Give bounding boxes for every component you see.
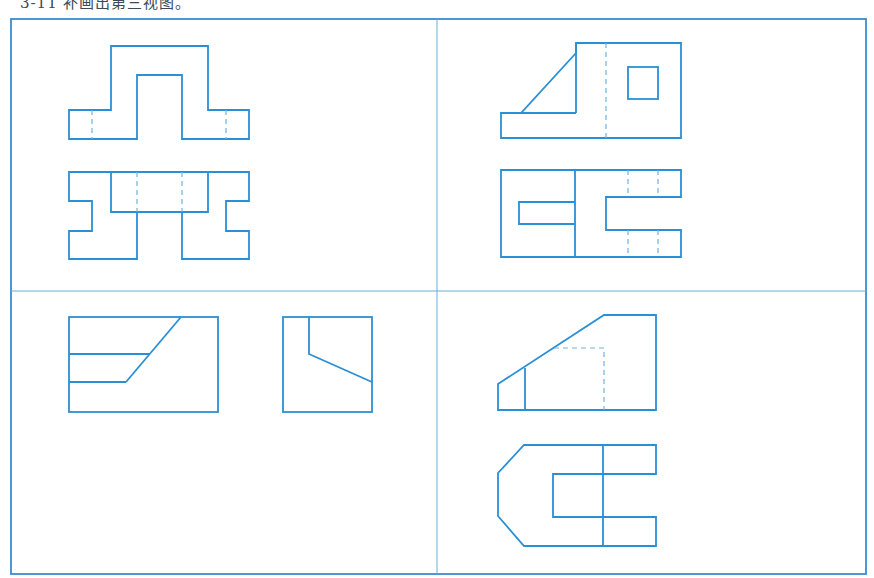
panel-b-drawing (501, 43, 681, 257)
panel-c-front-view (69, 317, 218, 412)
side-cut-line (309, 317, 372, 382)
hidden-line (554, 348, 604, 410)
slope-line (126, 317, 181, 382)
panel-d-drawing (498, 315, 656, 546)
panel-d-top-view (498, 445, 656, 546)
panel-a-drawing (69, 46, 249, 259)
panel-c-side-view (283, 317, 372, 412)
panel-a-front-view (69, 46, 249, 139)
square-hole (628, 67, 658, 99)
panel-b-top-view (501, 170, 681, 257)
panel-b-front-view (501, 43, 681, 138)
drawing-sheet (0, 0, 874, 578)
panel-c-drawing (69, 317, 372, 412)
panel-a-top-view (69, 172, 249, 259)
sheet-frame (11, 19, 866, 574)
panel-d-front-view (498, 315, 656, 410)
slot (519, 202, 575, 224)
panel-a-top-inner (111, 172, 208, 212)
